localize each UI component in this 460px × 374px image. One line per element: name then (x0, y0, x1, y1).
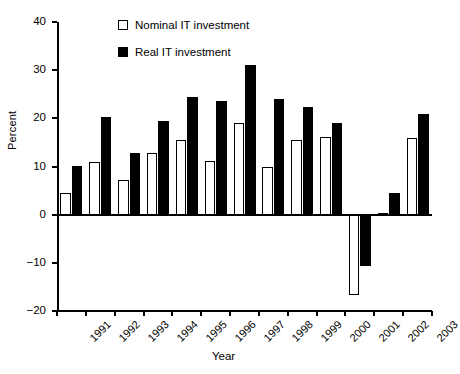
x-tick-mark (171, 311, 173, 316)
bar-nominal-1993 (118, 180, 129, 215)
legend-entry-real: Real IT investment (118, 46, 231, 58)
x-tick-label-1992: 1992 (116, 318, 142, 344)
bar-nominal-1994 (147, 153, 158, 214)
bar-real-1993 (130, 153, 141, 215)
bar-nominal-1999 (291, 140, 302, 214)
x-tick-label-1991: 1991 (88, 318, 114, 344)
bar-real-2001 (360, 215, 371, 267)
legend-label-nominal: Nominal IT investment (135, 19, 249, 31)
y-tick-mark (52, 166, 57, 168)
x-tick-mark (316, 311, 318, 316)
x-tick-label-1996: 1996 (232, 318, 258, 344)
bar-real-1997 (245, 65, 256, 214)
y-tick-mark (52, 117, 57, 119)
bar-nominal-2002 (378, 213, 389, 215)
y-tick-label: 40 (12, 16, 46, 27)
x-tick-label-2000: 2000 (347, 318, 373, 344)
bar-real-1992 (101, 117, 112, 215)
bar-nominal-1991 (60, 193, 71, 215)
bar-nominal-2001 (349, 215, 360, 295)
x-tick-mark (344, 311, 346, 316)
y-tick-label: 10 (12, 161, 46, 172)
y-tick-mark (52, 21, 57, 23)
y-tick-label: 30 (12, 64, 46, 75)
x-tick-mark (143, 311, 145, 316)
bar-nominal-1997 (234, 123, 245, 215)
bar-real-1998 (274, 99, 285, 215)
x-tick-label-2002: 2002 (405, 318, 431, 344)
y-axis-line (57, 22, 59, 311)
x-tick-mark (200, 311, 202, 316)
bar-nominal-1996 (205, 161, 216, 214)
x-tick-mark (287, 311, 289, 316)
y-tick-label: 20 (12, 112, 46, 123)
legend-label-real: Real IT investment (135, 46, 231, 58)
x-tick-mark (258, 311, 260, 316)
legend-swatch-nominal-icon (118, 20, 128, 30)
bar-nominal-2003 (407, 138, 418, 215)
x-tick-mark (229, 311, 231, 316)
x-tick-mark (402, 311, 404, 316)
x-tick-label-2003: 2003 (434, 318, 460, 344)
x-tick-mark (114, 311, 116, 316)
zero-baseline (57, 214, 432, 216)
bar-nominal-1995 (176, 140, 187, 215)
y-tick-label: −10 (12, 257, 46, 268)
y-tick-label: −20 (12, 305, 46, 316)
x-axis-line (57, 310, 432, 312)
legend-entry-nominal: Nominal IT investment (118, 19, 249, 31)
x-tick-mark (85, 311, 87, 316)
y-tick-mark (52, 69, 57, 71)
x-tick-label-2001: 2001 (376, 318, 402, 344)
bar-real-2003 (418, 114, 429, 214)
x-tick-mark-origin (56, 311, 58, 316)
y-tick-mark (52, 310, 57, 312)
bar-real-1995 (187, 97, 198, 215)
x-tick-label-1997: 1997 (261, 318, 287, 344)
x-tick-label-1998: 1998 (290, 318, 316, 344)
x-tick-label-1993: 1993 (145, 318, 171, 344)
x-tick-label-1995: 1995 (203, 318, 229, 344)
bar-nominal-1998 (262, 167, 273, 214)
bar-real-1994 (158, 121, 169, 215)
bar-real-2002 (389, 193, 400, 215)
bar-nominal-1992 (89, 162, 100, 215)
legend-swatch-real-icon (118, 47, 128, 57)
bar-real-2000 (332, 123, 343, 215)
bar-nominal-2000 (320, 137, 331, 215)
bar-real-1996 (216, 101, 227, 215)
x-axis-label: Year (0, 350, 447, 362)
x-tick-label-1999: 1999 (318, 318, 344, 344)
x-tick-label-1994: 1994 (174, 318, 200, 344)
y-tick-mark (52, 262, 57, 264)
y-tick-mark (52, 214, 57, 216)
bar-real-1999 (303, 107, 314, 215)
y-tick-label: 0 (12, 209, 46, 220)
x-tick-mark (373, 311, 375, 316)
bar-real-1991 (72, 166, 83, 215)
x-tick-mark (431, 311, 433, 316)
